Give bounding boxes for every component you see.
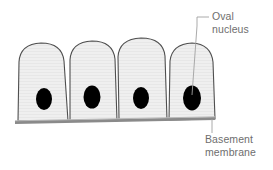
- label-basement-membrane: Basement membrane: [205, 133, 256, 158]
- oval-nucleus-3: [133, 87, 149, 109]
- columnar-cell-2: [70, 41, 117, 121]
- label-oval-nucleus: Oval nucleus: [212, 10, 249, 35]
- epithelium-diagram: Oval nucleus Basement membrane: [0, 0, 273, 170]
- oval-nucleus-2: [84, 86, 101, 109]
- oval-nucleus-1: [36, 88, 52, 110]
